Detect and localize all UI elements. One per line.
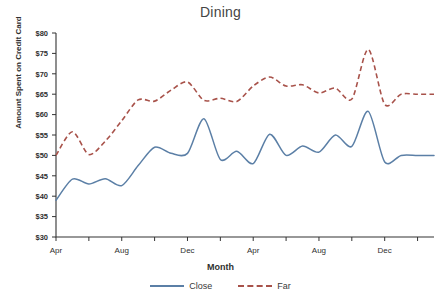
dining-line-chart: Dining Amount Spent on Credit Card $30$3… [0, 0, 441, 300]
y-tick-label: $45 [35, 172, 48, 181]
y-tick-label: $50 [35, 151, 48, 160]
y-tick-label-group: $30$35$40$45$50$55$60$65$70$75$80 [35, 29, 48, 242]
chart-legend: Close Far [0, 281, 441, 291]
x-axis-title: Month [0, 262, 441, 272]
y-tick-label: $65 [35, 90, 48, 99]
x-tick-label: Apr [50, 246, 63, 255]
axis-lines [56, 33, 434, 237]
y-tick-label: $40 [35, 192, 48, 201]
y-tick-label: $70 [35, 70, 48, 79]
y-tick-label: $75 [35, 49, 48, 58]
y-tick-label: $80 [35, 29, 48, 38]
x-tick-label-group: AprAugDecAprAugDec [50, 246, 392, 255]
y-tick-label: $60 [35, 110, 48, 119]
series-line-close [56, 111, 434, 200]
legend-label-close: Close [189, 281, 212, 291]
x-tick-label: Aug [115, 246, 129, 255]
y-tick-mark-group [52, 33, 56, 237]
legend-item-far[interactable]: Far [238, 281, 291, 291]
y-tick-label: $55 [35, 131, 48, 140]
y-tick-label: $35 [35, 212, 48, 221]
x-tick-label: Aug [312, 246, 326, 255]
x-tick-label: Apr [247, 246, 260, 255]
legend-item-close[interactable]: Close [150, 281, 212, 291]
x-tick-mark-group [56, 237, 418, 241]
legend-swatch-close [150, 285, 184, 287]
plot-area: $30$35$40$45$50$55$60$65$70$75$80 AprAug… [0, 0, 441, 300]
legend-swatch-far [238, 285, 272, 287]
x-tick-label: Dec [180, 246, 194, 255]
y-tick-label: $30 [35, 233, 48, 242]
legend-label-far: Far [277, 281, 291, 291]
x-tick-label: Dec [378, 246, 392, 255]
